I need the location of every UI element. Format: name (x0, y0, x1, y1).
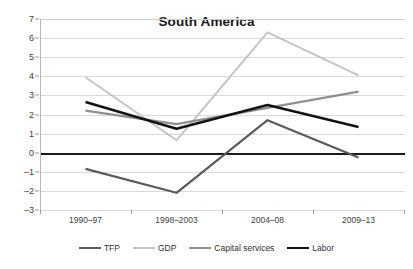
legend-swatch-icon (189, 247, 211, 249)
y-axis-tick-mark (35, 190, 39, 191)
y-axis-tick-label: 4 (29, 71, 34, 81)
y-axis-tick-label: 5 (29, 52, 34, 62)
y-axis-tick-mark (35, 38, 39, 39)
line-chart: South America 76543210–1–2–3 1990–971998… (0, 0, 413, 269)
legend-swatch-icon (79, 247, 101, 249)
y-axis-tick-label: 1 (29, 129, 34, 139)
x-axis-tick-label: 1990–97 (69, 215, 102, 225)
series-line-gdp (86, 32, 359, 140)
y-axis-tick-label: 2 (29, 110, 34, 120)
y-axis-tick-mark (35, 152, 39, 153)
y-axis-tick-mark (35, 133, 39, 134)
gridline (41, 210, 405, 211)
legend-label: GDP (158, 243, 176, 253)
y-axis-tick-mark (35, 171, 39, 172)
legend-item-capital-services[interactable]: Capital services (189, 243, 274, 253)
x-axis-tick-mark (131, 210, 132, 214)
series-line-tfp (86, 120, 359, 193)
legend-item-gdp[interactable]: GDP (133, 243, 176, 253)
legend-item-tfp[interactable]: TFP (79, 243, 120, 253)
y-axis-tick-label: 0 (29, 148, 34, 158)
x-axis-tick-mark (313, 210, 314, 214)
y-axis-tick-label: 3 (29, 90, 34, 100)
y-axis-tick-mark (35, 76, 39, 77)
series-layer (40, 19, 404, 210)
x-axis-tick-label: 1998–2003 (155, 215, 198, 225)
series-line-capital-services (86, 92, 359, 124)
x-axis-tick-mark (40, 210, 41, 214)
x-axis-tick-mark (404, 210, 405, 214)
y-axis-tick-mark (35, 95, 39, 96)
x-axis-tick-mark (222, 210, 223, 214)
x-axis-tick-label: 2004–08 (251, 215, 284, 225)
legend-swatch-icon (133, 247, 155, 249)
y-axis-tick-mark (35, 114, 39, 115)
y-axis-tick-label: –2 (24, 186, 34, 196)
y-axis-tick-label: –3 (24, 205, 34, 215)
y-axis-tick-mark (35, 19, 39, 20)
legend-item-labor[interactable]: Labor (287, 243, 334, 253)
y-axis-tick-mark (35, 57, 39, 58)
legend-label: TFP (104, 243, 120, 253)
y-axis-tick-mark (35, 210, 39, 211)
legend-label: Labor (312, 243, 334, 253)
legend-label: Capital services (214, 243, 274, 253)
legend-swatch-icon (287, 247, 309, 249)
chart-legend: TFPGDPCapital servicesLabor (0, 243, 413, 253)
y-axis-tick-label: 7 (29, 14, 34, 24)
y-axis-tick-label: 6 (29, 33, 34, 43)
y-axis-tick-label: –1 (24, 167, 34, 177)
x-axis-tick-label: 2009–13 (342, 215, 375, 225)
y-axis: 76543210–1–2–3 (0, 19, 40, 210)
